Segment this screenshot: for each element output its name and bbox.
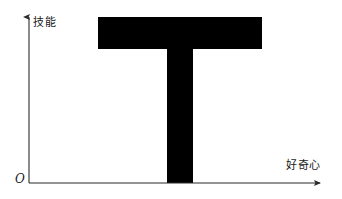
t-shape-skill-diagram: 技能 好奇心 O bbox=[0, 0, 342, 199]
x-axis-label: 好奇心 bbox=[286, 159, 321, 172]
t-shape-polygon bbox=[98, 17, 262, 183]
t-shape-mark bbox=[98, 17, 262, 183]
origin-label: O bbox=[15, 172, 25, 186]
y-axis-label: 技能 bbox=[33, 16, 56, 29]
